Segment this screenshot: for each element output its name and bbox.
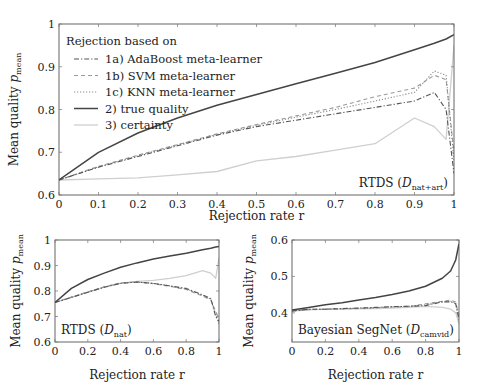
x-tick-label: 0.2 (129, 198, 147, 211)
dataset-annotation: Bayesian SegNet (Dcamvid) (298, 323, 454, 339)
x-tick-label: 1 (451, 198, 458, 211)
y-tick-label: 0.8 (38, 104, 56, 117)
x-tick-label: 0.1 (90, 198, 108, 211)
x-tick-label: 0.2 (317, 345, 335, 358)
series-line-1 (55, 282, 219, 322)
y-axis-label: Mean quality pmean (242, 234, 258, 348)
series-line-4 (292, 244, 459, 310)
series-line-4 (55, 246, 219, 302)
x-tick-label: 0.7 (327, 198, 345, 211)
x-tick-label: 0.6 (383, 345, 401, 358)
dataset-annotation: RTDS (Dnat) (61, 323, 132, 339)
x-tick-label: 0.6 (145, 345, 163, 358)
series-group (55, 246, 219, 324)
y-tick-label: 0.6 (34, 336, 52, 349)
legend-entry-label: 3) certainty (105, 118, 173, 132)
series-group (292, 244, 459, 324)
y-tick-label: 1 (44, 234, 51, 247)
dataset-annotation: RTDS (Dnat+art) (359, 176, 448, 192)
x-axis-label: Rejection rate r (89, 368, 185, 382)
legend-entry-label: 1b) SVM meta-learner (105, 69, 236, 83)
x-tick-label: 0.2 (79, 345, 97, 358)
legend-entry-label: 1c) KNN meta-learner (105, 85, 235, 99)
series-line-5 (55, 258, 219, 303)
y-tick-label: 1 (48, 18, 55, 31)
x-tick-label: 0 (56, 198, 63, 211)
x-axis-label: Rejection rate r (209, 209, 305, 223)
y-tick-label: 0.6 (38, 189, 56, 202)
y-tick-label: 0.7 (38, 146, 56, 159)
y-axis-label: Mean quality pmean (9, 234, 25, 348)
bottom-left-plot-panel: 00.20.40.60.810.60.70.80.91Rejection rat… (9, 234, 223, 382)
series-line-2 (55, 282, 219, 319)
legend-entry-label: 2) true quality (105, 102, 189, 116)
y-tick-label: 0.8 (34, 285, 52, 298)
x-tick-label: 0.8 (177, 345, 195, 358)
series-line-3 (55, 282, 219, 324)
legend-entry-label: 1a) AdaBoost meta-learner (105, 52, 262, 66)
y-tick-label: 0.4 (271, 307, 289, 320)
chart-legend: Rejection based on1a) AdaBoost meta-lear… (66, 34, 262, 132)
y-tick-label: 0.9 (38, 61, 56, 74)
x-tick-label: 0.4 (350, 345, 368, 358)
x-tick-label: 0.4 (112, 345, 130, 358)
main-plot-panel: 00.10.20.30.40.50.60.70.80.910.60.70.80.… (7, 18, 458, 223)
x-tick-label: 0.3 (169, 198, 187, 211)
y-tick-label: 0.5 (271, 270, 289, 283)
x-tick-label: 0.8 (417, 345, 435, 358)
y-axis-label: Mean quality pmean (7, 53, 23, 167)
y-tick-label: 0.9 (34, 260, 52, 273)
x-axis-label: Rejection rate r (328, 368, 424, 382)
x-tick-label: 0 (52, 345, 59, 358)
chart-figure: 00.10.20.30.40.50.60.70.80.910.60.70.80.… (0, 0, 477, 389)
bottom-right-plot-panel: 00.20.40.60.810.40.50.6Rejection rate rM… (242, 234, 463, 382)
x-tick-label: 1 (216, 345, 223, 358)
legend-title: Rejection based on (66, 34, 177, 48)
series-line-1 (292, 302, 459, 320)
x-tick-label: 0.8 (366, 198, 384, 211)
x-tick-label: 0.9 (406, 198, 424, 211)
x-tick-label: 0 (289, 345, 296, 358)
x-tick-label: 1 (456, 345, 463, 358)
y-tick-label: 0.7 (34, 311, 52, 324)
y-tick-label: 0.6 (271, 234, 289, 247)
